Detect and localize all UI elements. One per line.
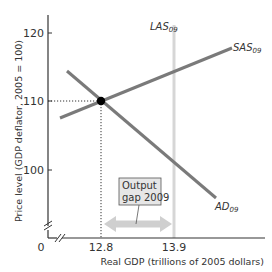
x-tick-12-8: 12.8: [89, 241, 114, 254]
y-tick-100: 100: [23, 164, 44, 177]
sas-label: SAS09: [233, 42, 262, 55]
output-gap-label-line1: Output: [122, 180, 157, 191]
y-axis: [44, 15, 52, 238]
output-gap-callout: Output gap 2009: [119, 178, 169, 224]
ad-label: AD09: [214, 201, 239, 214]
chart: 120 110 100 0 12.8 13.9 Price level (GDP…: [0, 0, 272, 272]
x-tick-13-9: 13.9: [162, 241, 187, 254]
x-tick-origin: 0: [38, 241, 45, 254]
las-label: LAS09: [150, 21, 178, 34]
y-axis-label: Price level (GDP deflator, 2005 = 100): [13, 40, 24, 222]
x-axis: [48, 234, 265, 242]
sas-curve: [60, 48, 232, 118]
y-tick-120: 120: [23, 27, 44, 40]
output-gap-label-line2: gap 2009: [122, 192, 169, 203]
y-tick-110: 110: [23, 95, 44, 108]
equilibrium-point: [97, 97, 105, 105]
x-axis-label: Real GDP (trillions of 2005 dollars): [101, 256, 265, 267]
output-gap-arrow: [104, 216, 172, 232]
